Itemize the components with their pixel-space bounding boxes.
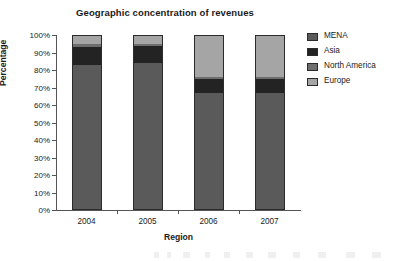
- y-tick-label: 40%: [34, 136, 50, 145]
- legend-item-europe[interactable]: Europe: [307, 74, 407, 89]
- y-tick-label: 0%: [38, 206, 50, 215]
- y-tick-label: 70%: [34, 83, 50, 92]
- bar-segment-2004-mena[interactable]: [72, 65, 102, 210]
- legend-label: Europe: [324, 77, 350, 85]
- y-tick-label: 10%: [34, 188, 50, 197]
- y-tick-mark: [52, 210, 56, 211]
- bar-segment-2005-asia[interactable]: [133, 46, 163, 64]
- bar-segment-2007-asia[interactable]: [255, 79, 285, 93]
- bar-2005[interactable]: [133, 35, 163, 210]
- legend-item-asia[interactable]: Asia: [307, 44, 407, 59]
- x-tick-mark: [178, 210, 179, 214]
- legend-label: MENA: [324, 32, 348, 40]
- x-tick-label: 2007: [260, 217, 278, 226]
- bar-series-group: [56, 35, 300, 210]
- bar-segment-2005-north-america[interactable]: [133, 44, 163, 46]
- bar-segment-2006-mena[interactable]: [194, 93, 224, 210]
- x-tick-mark: [239, 210, 240, 214]
- x-tick-mark: [117, 210, 118, 214]
- bar-2004[interactable]: [72, 35, 102, 210]
- chart-legend: MENAAsiaNorth AmericaEurope: [307, 29, 407, 89]
- legend-swatch-icon: [307, 48, 318, 56]
- legend-swatch-icon: [307, 63, 318, 71]
- legend-swatch-icon: [307, 78, 318, 86]
- bar-2006[interactable]: [194, 35, 224, 210]
- legend-label: Asia: [324, 47, 340, 55]
- bar-segment-2005-mena[interactable]: [133, 63, 163, 210]
- x-tick-label: 2004: [77, 217, 95, 226]
- y-tick-label: 60%: [34, 101, 50, 110]
- y-tick-label: 20%: [34, 171, 50, 180]
- y-tick-label: 90%: [34, 48, 50, 57]
- plot-area: 0%10%20%30%40%50%60%70%80%90%100% 200420…: [56, 35, 300, 210]
- y-tick-label: 50%: [34, 118, 50, 127]
- chart-container: Geographic concentration of revenues Per…: [0, 0, 410, 261]
- chart-title: Geographic concentration of revenues: [0, 7, 330, 18]
- y-tick-label: 80%: [34, 66, 50, 75]
- scan-artifact: [150, 252, 400, 258]
- bar-segment-2004-europe[interactable]: [72, 35, 102, 44]
- y-tick-label: 100%: [30, 31, 50, 40]
- bar-segment-2006-asia[interactable]: [194, 79, 224, 93]
- bar-segment-2007-mena[interactable]: [255, 93, 285, 210]
- legend-item-north-america[interactable]: North America: [307, 59, 407, 74]
- legend-item-mena[interactable]: MENA: [307, 29, 407, 44]
- bar-segment-2004-asia[interactable]: [72, 47, 102, 65]
- x-tick-label: 2005: [138, 217, 156, 226]
- y-tick-label: 30%: [34, 153, 50, 162]
- x-axis-title: Region: [56, 232, 301, 242]
- x-tick-label: 2006: [199, 217, 217, 226]
- bar-segment-2006-europe[interactable]: [194, 35, 224, 77]
- bar-segment-2007-north-america[interactable]: [255, 77, 285, 79]
- legend-label: North America: [324, 62, 376, 70]
- bar-segment-2004-north-america[interactable]: [72, 44, 102, 48]
- bar-2007[interactable]: [255, 35, 285, 210]
- bar-segment-2005-europe[interactable]: [133, 35, 163, 44]
- bar-segment-2006-north-america[interactable]: [194, 77, 224, 79]
- legend-swatch-icon: [307, 33, 318, 41]
- y-axis-title: Percentage: [0, 40, 8, 86]
- bar-segment-2007-europe[interactable]: [255, 35, 285, 77]
